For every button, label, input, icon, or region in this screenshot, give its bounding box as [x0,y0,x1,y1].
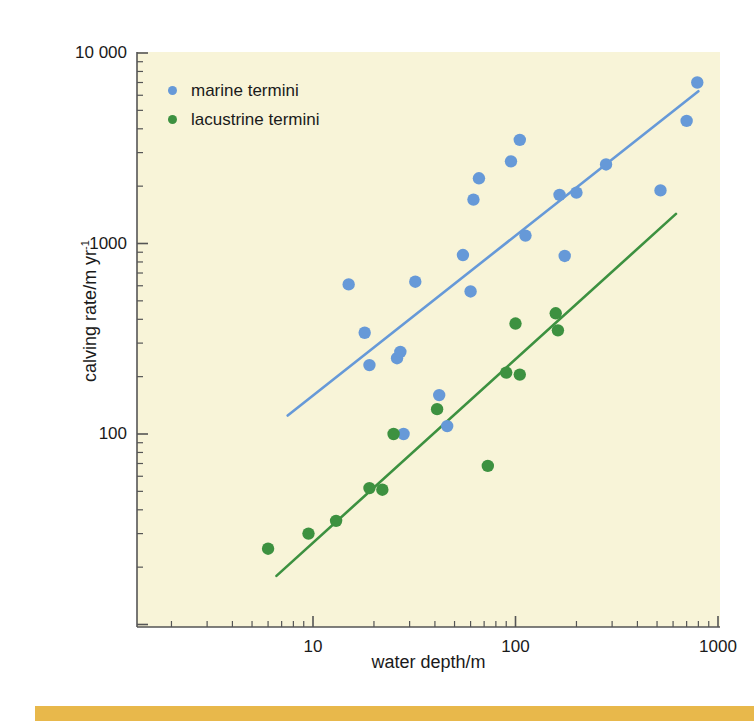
marine-fit-line [288,91,699,415]
figure-page: 10100100010 0001000100 marine terminilac… [0,0,754,721]
marine-data-point [467,193,479,205]
marine-data-point [433,389,445,401]
y-axis-ticks [137,53,148,625]
scatter-chart-figure: 10100100010 0001000100 marine terminilac… [0,0,754,688]
legend-label: marine termini [191,81,299,101]
bottom-decorative-band [35,706,754,721]
y-axis-title-text: calving rate/m yr [80,250,100,382]
legend-item-lacustrine: lacustrine termini [168,105,320,134]
lacustrine-data-point [330,515,342,527]
axis-lines [137,52,720,627]
legend-label: lacustrine termini [191,110,320,130]
lacustrine-data-point [509,317,521,329]
marine-data-point [553,189,565,201]
marine-data-point [457,249,469,261]
x-axis-title: water depth/m [137,652,720,673]
marine-data-point [473,172,485,184]
marine-data-point [409,276,421,288]
y-tick-label: 10 000 [75,43,127,63]
marine-data-point [441,420,453,432]
lacustrine-data-point [500,366,512,378]
chart-legend: marine terminilacustrine termini [168,76,320,134]
marine-data-point [600,158,612,170]
regression-lines [276,91,698,576]
marine-data-point [691,76,703,88]
lacustrine-data-point [376,484,388,496]
lacustrine-data-point [363,482,375,494]
marine-data-point [654,184,666,196]
lacustrine-data-point [431,403,443,415]
lacustrine-data-point [387,428,399,440]
marine-data-point [363,359,375,371]
marine-data-point [559,250,571,262]
lacustrine-termini-points [262,307,564,555]
y-axis-title-exponent: -1 [79,240,91,250]
marine-data-point [505,155,517,167]
marine-data-point [358,327,370,339]
lacustrine-data-point [482,460,494,472]
legend-item-marine: marine termini [168,76,320,105]
y-axis-title: calving rate/m yr-1 [79,181,101,441]
marine-data-point [342,278,354,290]
x-axis-ticks [171,616,718,627]
marine-data-point [570,186,582,198]
legend-marker-icon [168,115,177,124]
lacustrine-data-point [552,324,564,336]
legend-marker-icon [168,86,177,95]
lacustrine-data-point [514,368,526,380]
chart-canvas [0,0,754,688]
marine-data-point [514,134,526,146]
lacustrine-data-point [550,307,562,319]
y-tick-label: 100 [99,424,127,444]
lacustrine-data-point [262,542,274,554]
marine-data-point [464,285,476,297]
lacustrine-data-point [302,527,314,539]
marine-data-point [519,229,531,241]
marine-data-point [680,115,692,127]
marine-data-point [394,346,406,358]
